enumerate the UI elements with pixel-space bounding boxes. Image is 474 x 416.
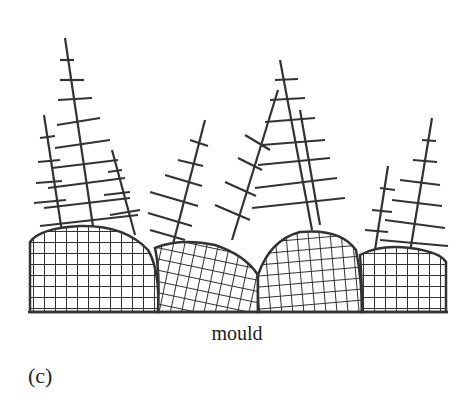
mould-label: mould xyxy=(0,322,474,345)
chill-zone-grains xyxy=(30,226,446,312)
dendrite-arms xyxy=(34,38,448,252)
solidification-diagram xyxy=(0,0,474,416)
panel-label: (c) xyxy=(28,363,52,389)
